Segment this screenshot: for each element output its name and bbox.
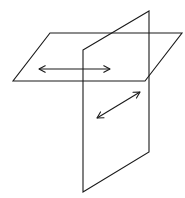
arrows-group xyxy=(39,66,140,118)
intersecting-planes-diagram xyxy=(0,0,185,198)
vertical-plane xyxy=(83,11,149,192)
planes-group xyxy=(13,11,182,192)
diagonal-arrow-shaft xyxy=(97,92,140,118)
horizontal-arrow xyxy=(39,66,110,73)
diagonal-arrow xyxy=(97,92,140,118)
horizontal-plane xyxy=(13,33,182,81)
